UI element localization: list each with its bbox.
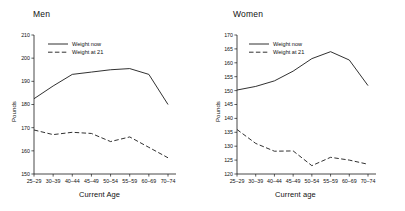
x-tick-label: 55–59 — [122, 178, 137, 184]
chart-panel-women: Women Pounds Current age 120125130135140… — [203, 0, 405, 211]
y-tick-label: 200 — [21, 55, 30, 61]
plot-area-women: 12012513013514014515015516016517025–2930… — [203, 0, 405, 211]
x-tick-label: 70–74 — [161, 178, 176, 184]
x-tick-label: 55–59 — [323, 178, 338, 184]
x-tick-label: 45–49 — [286, 178, 301, 184]
x-tick-label: 40–44 — [267, 178, 282, 184]
y-tick-label: 160 — [224, 60, 233, 66]
y-tick-label: 150 — [224, 88, 233, 94]
legend-label-weight-at-21: Weight at 21 — [72, 49, 103, 55]
x-tick-label: 60–69 — [141, 178, 156, 184]
x-tick-label: 30–39 — [248, 178, 263, 184]
plot-area-men: 15016017018019020021025–2930–3940–4445–4… — [0, 0, 202, 211]
x-tick-label: 60–69 — [342, 178, 357, 184]
legend-label-weight-now: Weight now — [273, 41, 303, 47]
y-tick-label: 210 — [21, 32, 30, 38]
y-tick-label: 120 — [224, 171, 233, 177]
y-tick-label: 145 — [224, 101, 233, 107]
y-tick-label: 170 — [224, 32, 233, 38]
x-tick-label: 45–49 — [84, 178, 99, 184]
series-line-weight-now — [237, 52, 368, 90]
y-tick-label: 150 — [21, 171, 30, 177]
y-tick-label: 165 — [224, 46, 233, 52]
legend-label-weight-now: Weight now — [72, 41, 102, 47]
y-tick-label: 170 — [21, 125, 30, 131]
legend-label-weight-at-21: Weight at 21 — [273, 49, 304, 55]
weight-comparison-figure: Men Pounds Current Age 15016017018019020… — [0, 0, 405, 211]
chart-panel-men: Men Pounds Current Age 15016017018019020… — [0, 0, 202, 211]
y-tick-label: 155 — [224, 74, 233, 80]
y-tick-label: 180 — [21, 101, 30, 107]
y-tick-label: 125 — [224, 157, 233, 163]
y-tick-label: 160 — [21, 148, 30, 154]
series-line-weight-at-21 — [34, 130, 168, 158]
y-tick-label: 130 — [224, 143, 233, 149]
x-tick-label: 25–29 — [27, 178, 42, 184]
x-tick-label: 70–74 — [361, 178, 376, 184]
series-line-weight-at-21 — [237, 130, 368, 166]
x-tick-label: 40–44 — [65, 178, 80, 184]
x-tick-label: 50–54 — [103, 178, 118, 184]
series-line-weight-now — [34, 69, 168, 105]
y-tick-label: 135 — [224, 129, 233, 135]
x-tick-label: 50–54 — [304, 178, 319, 184]
y-tick-label: 140 — [224, 115, 233, 121]
y-tick-label: 190 — [21, 78, 30, 84]
x-tick-label: 30–39 — [46, 178, 61, 184]
x-tick-label: 25–29 — [230, 178, 245, 184]
